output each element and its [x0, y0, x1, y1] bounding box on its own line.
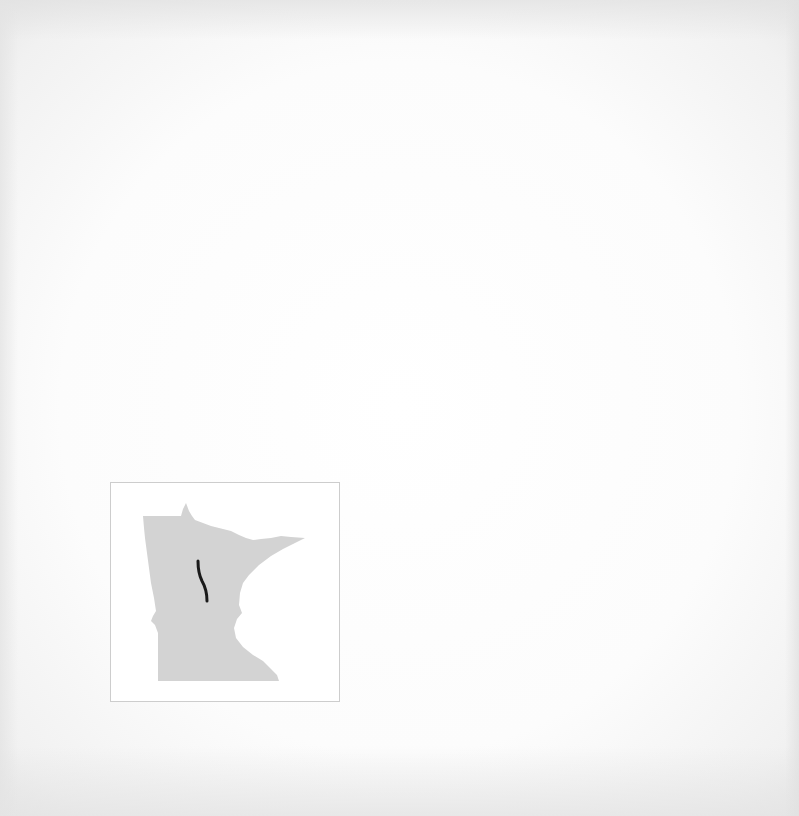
page-shadow-left — [0, 0, 18, 816]
minnesota-locator-map — [111, 483, 341, 703]
page-shadow-bottom — [0, 746, 799, 816]
scanned-page — [0, 0, 799, 816]
locator-map-frame — [110, 482, 340, 702]
page-shadow-right — [785, 0, 799, 816]
page-shadow-top — [0, 0, 799, 40]
minnesota-state-shape — [143, 503, 305, 681]
